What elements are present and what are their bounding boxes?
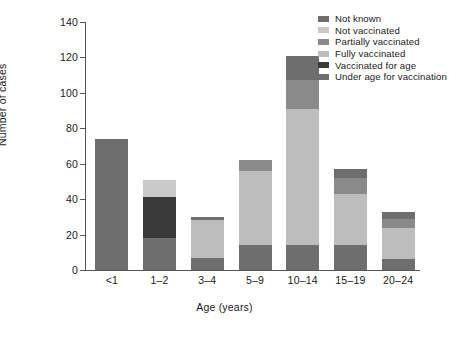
y-tick-label: 140 <box>50 16 78 28</box>
bar-segment <box>191 258 224 270</box>
legend-swatch-icon <box>318 51 329 57</box>
legend-item: Partially vaccinated <box>318 36 447 48</box>
bar-segment <box>239 160 272 171</box>
legend-label: Vaccinated for age <box>335 60 416 71</box>
y-tick-mark <box>80 22 85 23</box>
legend-item: Not known <box>318 13 447 25</box>
y-tick-mark <box>80 164 85 165</box>
bar-segment <box>286 80 319 108</box>
bar-segment <box>95 139 128 270</box>
y-tick-mark <box>80 57 85 58</box>
y-tick-mark <box>80 199 85 200</box>
bar-segment <box>143 180 176 198</box>
bar-segment <box>143 238 176 270</box>
legend-swatch-icon <box>318 27 329 33</box>
bar-column <box>95 22 128 270</box>
y-tick-label: 20 <box>50 229 78 241</box>
x-tick-label: 20–24 <box>368 274 428 286</box>
legend-label: Not known <box>335 13 381 24</box>
legend-label: Fully vaccinated <box>335 48 405 59</box>
bar-segment <box>334 178 367 194</box>
legend-swatch-icon <box>318 16 329 22</box>
y-tick-label: 60 <box>50 158 78 170</box>
x-axis-title: Age (years) <box>0 301 449 313</box>
bar-segment <box>286 245 319 270</box>
bar-segment <box>143 197 176 238</box>
y-tick-label: 0 <box>50 264 78 276</box>
y-tick-mark <box>80 270 85 271</box>
y-tick-label: 100 <box>50 87 78 99</box>
legend-swatch-icon <box>318 62 329 68</box>
bar-segment <box>382 212 415 219</box>
bar-column <box>143 22 176 270</box>
legend-item: Vaccinated for age <box>318 59 447 71</box>
y-tick-mark <box>80 128 85 129</box>
bar-segment <box>334 169 367 178</box>
bar-segment <box>286 109 319 245</box>
bar-column <box>239 22 272 270</box>
bar-segment <box>191 217 224 221</box>
legend-label: Not vaccinated <box>335 25 400 36</box>
bar-segment <box>239 245 272 270</box>
y-tick-mark <box>80 235 85 236</box>
bar-segment <box>382 228 415 260</box>
legend-item: Under age for vaccination <box>318 71 447 83</box>
legend: Not knownNot vaccinatedPartially vaccina… <box>318 13 447 83</box>
y-tick-mark <box>80 93 85 94</box>
x-axis-line <box>85 270 420 271</box>
y-axis-title: Number of cases <box>0 64 8 146</box>
y-tick-label: 80 <box>50 122 78 134</box>
bar-segment <box>334 194 367 245</box>
legend-item: Fully vaccinated <box>318 48 447 60</box>
bar-segment <box>191 220 224 257</box>
legend-item: Not vaccinated <box>318 25 447 37</box>
legend-label: Partially vaccinated <box>335 36 420 47</box>
bar-segment <box>382 259 415 270</box>
bar-segment <box>239 171 272 245</box>
legend-swatch-icon <box>318 39 329 45</box>
bar-segment <box>382 219 415 228</box>
stacked-bar-chart: 020406080100120140 Number of cases <11–2… <box>0 0 449 338</box>
legend-label: Under age for vaccination <box>335 71 447 82</box>
bar-column <box>286 22 319 270</box>
bar-segment <box>286 56 319 81</box>
y-tick-label: 40 <box>50 193 78 205</box>
y-tick-label: 120 <box>50 51 78 63</box>
legend-swatch-icon <box>318 74 329 80</box>
bar-segment <box>334 245 367 270</box>
bar-column <box>191 22 224 270</box>
